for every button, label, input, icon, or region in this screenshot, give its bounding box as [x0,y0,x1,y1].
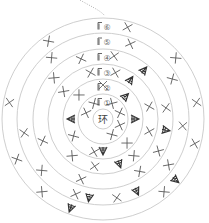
x-stitch-icon [163,159,174,170]
chain-start-icon [98,54,102,61]
row-label-3: ③ [98,69,111,78]
chain-start-icon [98,38,102,45]
increase-stitch-icon [131,186,142,197]
x-stitch-icon [161,103,170,112]
increase-stitch-icon [161,125,170,134]
increase-stitch-icon [99,147,107,155]
x-stitch-icon [153,146,164,157]
increase-stitch-icon [120,91,131,102]
x-stitch-icon [76,54,86,64]
increase-stitch-icon [125,74,136,85]
increase-stitch-icon [65,203,75,213]
x-stitch-icon [192,98,201,107]
x-stitch-icon [20,128,29,137]
x-stitch-icon [38,136,48,146]
x-stitch-icon [81,108,91,118]
row-number: ② [103,84,110,93]
x-stitch-icon [71,189,81,199]
x-stitch-icon [67,150,78,161]
x-stitch-icon [128,150,139,161]
x-stitch-icon [178,122,187,131]
x-stitch-icon [144,102,154,112]
row-label-6: ⑥ [98,23,111,32]
chain-start-icon [98,69,102,76]
x-stitch-icon [12,154,23,165]
increase-stitch-icon [114,159,124,169]
row-number: ⑤ [103,38,110,47]
yarn-tail-line [80,0,105,16]
crochet-chart: ①②③④⑤⑥ 环 [0,0,209,223]
row-label-1: ① [98,99,111,108]
center-ring-label: 环 [98,114,108,125]
x-stitch-icon [5,98,14,107]
x-stitch-icon [134,166,145,177]
x-stitch-icon [90,162,99,171]
x-stitch-icon [112,193,121,202]
x-stitch-icon [123,22,133,32]
x-stitch-icon [43,36,54,47]
row-number: ④ [103,54,110,63]
row-number: ③ [103,69,110,78]
x-stitch-icon [111,68,121,78]
x-stitch-icon [115,120,125,130]
increase-stitch-icon [67,115,75,123]
x-stitch-icon [89,147,99,157]
x-stitch-icon [144,127,154,137]
chain-start-icon [98,23,102,30]
x-stitch-icon [58,86,69,97]
x-stitch-icon [109,51,118,60]
x-stitch-icon [190,139,200,149]
increase-stitch-icon [131,115,139,123]
row-number: ① [103,99,110,108]
row-label-4: ④ [98,54,111,63]
x-stitch-icon [167,74,178,85]
row-number: ⑥ [103,23,110,32]
x-stitch-icon [107,129,118,140]
increase-stitch-icon [84,193,93,202]
x-stitch-icon [76,174,86,184]
x-stitch-icon [68,131,79,142]
x-stitch-icon [115,108,125,118]
x-stitch-icon [125,39,135,49]
row-label-5: ⑤ [98,38,111,47]
x-stitch-icon [86,68,96,78]
